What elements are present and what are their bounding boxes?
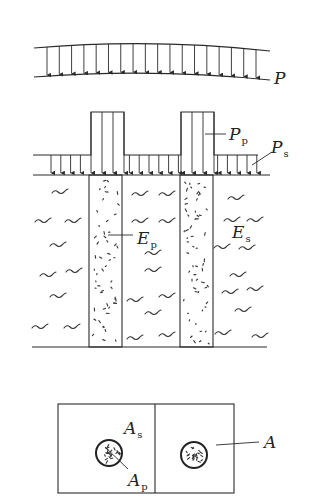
soil-squiggle (247, 217, 263, 222)
aggregate-speck (199, 194, 200, 195)
aggregate-speck (199, 341, 200, 342)
aggregate-speck (202, 282, 205, 283)
aggregate-speck (187, 188, 188, 191)
aggregate-speck (196, 279, 197, 280)
section-speck (198, 453, 200, 454)
aggregate-speck (106, 220, 108, 222)
section-speck (111, 458, 113, 459)
aggregate-speck (104, 180, 106, 181)
soil-squiggle (215, 330, 231, 335)
aggregate-speck (107, 241, 108, 242)
section-speck (201, 460, 202, 461)
aggregate-speck (105, 186, 106, 187)
aggregate-speck (196, 266, 198, 267)
aggregate-speck (186, 230, 189, 231)
aggregate-speck (195, 292, 197, 293)
soil-squiggle (65, 218, 81, 223)
composite-foundation-diagram: P Pp Ps Ep Es As (0, 0, 317, 497)
aggregate-speck (118, 204, 120, 205)
soil-load-arrows (51, 155, 257, 173)
soil-squiggle (159, 191, 175, 196)
aggregate-speck (103, 308, 105, 309)
aggregate-speck (208, 343, 209, 344)
unit-area-label: A (262, 432, 276, 452)
aggregate-speck (100, 189, 101, 190)
aggregate-speck (107, 304, 108, 306)
aggregate-speck (184, 299, 185, 300)
aggregate-speck (114, 214, 116, 215)
soil-squiggle (235, 307, 251, 312)
load-label-p: P (273, 68, 286, 88)
soil-squiggle (32, 324, 48, 329)
soil-squiggle (127, 335, 143, 340)
aggregate-speck (193, 246, 194, 247)
aggregate-speck (205, 331, 206, 332)
soil-squiggle (50, 293, 66, 298)
aggregate-speck (97, 211, 98, 213)
aggregate-speck (194, 340, 196, 342)
pile-aggregate-texture (92, 180, 209, 344)
aggregate-speck (117, 191, 118, 194)
section-speck (117, 451, 118, 453)
aggregate-speck (205, 287, 207, 288)
aggregate-speck (206, 209, 207, 210)
soil-squiggle (228, 195, 244, 200)
composite-foundation-panel: Pp Ps Ep Es (32, 112, 289, 347)
aggregate-speck (205, 233, 206, 236)
soil-squiggle (127, 297, 143, 302)
aggregate-speck (104, 236, 106, 238)
soil-squiggle (145, 250, 161, 255)
soil-texture (32, 189, 268, 340)
aggregate-speck (97, 242, 98, 244)
aggregate-speck (111, 281, 112, 282)
aggregate-speck (185, 209, 186, 212)
soil-squiggle (66, 268, 82, 273)
aggregate-speck (191, 336, 193, 337)
aggregate-speck (107, 180, 108, 181)
aggregate-speck (187, 253, 189, 254)
aggregate-speck (105, 330, 106, 332)
pile-area-label: Ap (126, 470, 148, 492)
aggregate-speck (203, 264, 204, 266)
aggregate-speck (197, 192, 199, 194)
soil-squiggle (159, 293, 175, 298)
load-top-curve (34, 44, 270, 51)
soil-squiggle (224, 217, 240, 222)
aggregate-speck (187, 238, 188, 239)
soil-squiggle (214, 244, 230, 249)
soil-squiggle (247, 286, 263, 291)
soil-squiggle (145, 310, 161, 315)
aggregate-speck (189, 271, 190, 272)
soil-squiggle (252, 333, 268, 338)
soil-squiggle (35, 218, 51, 223)
aggregate-speck (111, 287, 112, 288)
aggregate-speck (101, 290, 103, 291)
aggregate-speck (108, 253, 110, 254)
aggregate-speck (207, 285, 208, 286)
aggregate-speck (185, 198, 187, 199)
soil-squiggle (132, 191, 148, 196)
pile-load-label: Pp (228, 124, 248, 146)
aggregate-speck (94, 319, 96, 320)
aggregate-speck (109, 307, 110, 308)
soil-squiggle (239, 245, 255, 250)
plan-view-panel: As Ap A (58, 404, 276, 493)
soil-squiggle (230, 272, 246, 277)
unit-area-leader (216, 442, 259, 445)
aggregate-speck (115, 244, 117, 246)
aggregate-speck (114, 303, 117, 304)
soil-squiggle (222, 289, 238, 294)
aggregate-speck (94, 236, 96, 238)
section-speck (109, 454, 111, 455)
soil-squiggle (50, 242, 66, 247)
aggregate-speck (103, 199, 104, 200)
aggregate-speck (190, 226, 191, 229)
aggregate-speck (99, 320, 101, 322)
aggregate-speck (206, 302, 207, 304)
aggregate-speck (117, 246, 118, 248)
aggregate-speck (102, 269, 104, 271)
soil-load-label: Ps (270, 137, 289, 159)
aggregate-speck (109, 260, 110, 261)
aggregate-speck (100, 292, 102, 293)
aggregate-speck (188, 215, 189, 216)
